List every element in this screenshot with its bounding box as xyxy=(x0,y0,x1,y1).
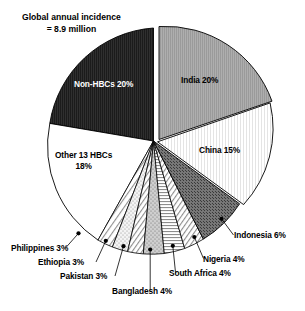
slice-label-south-africa: South Africa 4% xyxy=(169,268,231,279)
dot-south-africa xyxy=(171,244,175,248)
slice-label-other-13-hbcs: Other 13 HBCs 18% xyxy=(55,150,112,172)
dot-indonesia xyxy=(219,217,223,221)
slice-label-indonesia: Indonesia 6% xyxy=(234,230,286,241)
dot-philippines xyxy=(76,231,80,235)
slice-label-bangladesh: Bangladesh 4% xyxy=(112,286,172,297)
pie-slices xyxy=(48,26,274,254)
slice-label-non-hbcs: Non-HBCs 20% xyxy=(74,79,133,90)
slice-label-india: India 20% xyxy=(181,75,218,86)
other-hbcs-line-2: 18% xyxy=(55,161,112,172)
pie-chart: Global annual incidence = 8.9 million In… xyxy=(0,0,305,311)
dot-nigeria xyxy=(192,235,196,239)
caption-line-1: Global annual incidence xyxy=(22,11,121,23)
other-hbcs-line-1: Other 13 HBCs xyxy=(55,150,112,161)
dot-bangladesh xyxy=(148,247,152,251)
dot-pakistan xyxy=(121,244,125,248)
slice-label-china: China 15% xyxy=(199,145,240,156)
leader-ethiopia xyxy=(96,241,106,262)
caption-line-2: = 8.9 million xyxy=(22,23,121,35)
leader-indonesia xyxy=(222,219,234,235)
slice-label-pakistan: Pakistan 3% xyxy=(60,271,107,282)
dot-ethiopia xyxy=(104,239,108,243)
slice-label-philippines: Philippines 3% xyxy=(11,243,68,254)
chart-caption: Global annual incidence = 8.9 million xyxy=(22,11,121,35)
slice-label-nigeria: Nigeria 4% xyxy=(203,254,244,265)
slice-label-ethiopia: Ethiopia 3% xyxy=(38,257,84,268)
leader-pakistan xyxy=(115,246,124,276)
